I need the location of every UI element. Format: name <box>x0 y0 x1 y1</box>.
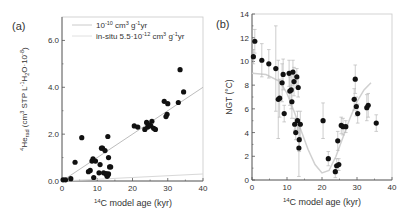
panel-b-frame <box>252 14 392 180</box>
data-point <box>273 66 278 71</box>
panel-a-frame <box>62 17 203 181</box>
panel-a-legend: 10-10 cm3 g-1yr in-situ 5.5·10-12 cm3 g-… <box>72 20 185 41</box>
data-point <box>102 148 107 153</box>
data-point <box>63 177 68 182</box>
data-point <box>297 137 302 142</box>
figure: (a) 010203040 0.02.04.06.0 10-10 cm3 g-1… <box>0 0 412 220</box>
data-point <box>91 175 96 180</box>
y-tick-label: 0.0 <box>48 177 60 186</box>
x-tick-label: 40 <box>388 183 397 192</box>
data-point <box>181 89 186 94</box>
x-tick-label: 40 <box>199 184 208 193</box>
data-point <box>252 39 257 44</box>
panel-b-data-points <box>251 39 379 175</box>
y-tick-label: 12 <box>240 34 249 43</box>
data-point <box>298 122 303 127</box>
data-point <box>355 111 360 116</box>
panel-a-fit-lines <box>62 87 203 181</box>
y-tick-label: 14 <box>240 10 249 19</box>
x-tick-label: 30 <box>353 183 362 192</box>
data-point <box>282 111 287 116</box>
data-point <box>266 61 271 66</box>
data-point <box>96 170 101 175</box>
data-point <box>354 104 359 109</box>
x-tick-label: 20 <box>128 184 137 193</box>
y-tick-label: 6.0 <box>48 36 60 45</box>
panel-b-error-bars <box>252 26 378 178</box>
panel-b-y-label: NGT (°C) <box>224 79 234 115</box>
data-point <box>105 134 110 139</box>
data-point <box>280 80 285 85</box>
data-point <box>293 130 298 135</box>
y-tick-label: 6 <box>245 105 250 114</box>
data-point <box>326 156 331 161</box>
panel-b-x-label: 14C model age (kyr) <box>283 197 361 207</box>
data-point <box>294 74 299 79</box>
y-tick-label: 2.0 <box>48 130 60 139</box>
data-point <box>289 99 294 104</box>
data-point <box>277 96 282 101</box>
panel-b-x-ticks: 010203040 <box>250 177 397 192</box>
x-tick-label: 30 <box>163 184 172 193</box>
y-tick-label: 4.0 <box>48 83 60 92</box>
panel-b: (b) 010203040 02468101214 14C model age … <box>216 10 397 207</box>
y-tick-label: 0 <box>245 176 250 185</box>
fit-line <box>62 87 203 181</box>
data-point <box>281 72 286 77</box>
data-point <box>177 67 182 72</box>
y-tick-label: 8 <box>245 81 250 90</box>
panel-a-label: (a) <box>12 20 25 32</box>
data-point <box>108 164 113 169</box>
data-point <box>106 155 111 160</box>
data-point <box>162 99 167 104</box>
data-point <box>320 118 325 123</box>
data-point <box>104 171 109 176</box>
data-point <box>97 162 102 167</box>
data-point <box>79 135 84 140</box>
data-point <box>343 124 348 129</box>
panel-a-y-label: 4Herad (cm3 STP L-1H2O·10-8) <box>19 47 30 151</box>
data-point <box>72 160 77 165</box>
data-point <box>259 58 264 63</box>
panel-a-x-label: 14C model age (kyr) <box>94 198 172 208</box>
data-point <box>68 176 73 181</box>
x-tick-label: 20 <box>318 183 327 192</box>
data-point <box>164 112 169 117</box>
panel-a-data-points <box>60 67 186 182</box>
data-point <box>176 100 181 105</box>
data-point <box>88 168 93 173</box>
panel-b-label: (b) <box>216 18 229 30</box>
x-tick-label: 10 <box>283 183 292 192</box>
data-point <box>353 77 358 82</box>
data-point <box>352 97 357 102</box>
x-tick-label: 0 <box>250 183 255 192</box>
data-point <box>366 103 371 108</box>
data-point <box>289 87 294 92</box>
panel-b-y-ticks: 02468101214 <box>240 10 255 185</box>
data-point <box>296 85 301 90</box>
data-point <box>296 145 301 150</box>
data-point <box>290 70 295 75</box>
x-tick-label: 10 <box>93 184 102 193</box>
legend-label-1: 10-10 cm3 g-1yr <box>96 20 147 30</box>
data-point <box>135 125 140 130</box>
panel-a: (a) 010203040 0.02.04.06.0 10-10 cm3 g-1… <box>12 17 208 208</box>
data-point <box>251 54 256 59</box>
y-tick-label: 4 <box>245 129 250 138</box>
data-point <box>333 169 338 174</box>
panel-b-trend-curve <box>252 73 371 173</box>
legend-label-2: in-situ 5.5·10-12 cm3 g-1yr <box>96 31 185 41</box>
data-point <box>93 158 98 163</box>
data-point <box>153 127 158 132</box>
data-point <box>336 162 341 167</box>
data-point <box>335 138 340 143</box>
data-point <box>291 79 296 84</box>
y-tick-label: 2 <box>245 152 250 161</box>
y-tick-label: 10 <box>240 57 249 66</box>
x-tick-label: 0 <box>60 184 65 193</box>
data-point <box>149 119 154 124</box>
data-point <box>374 120 379 125</box>
